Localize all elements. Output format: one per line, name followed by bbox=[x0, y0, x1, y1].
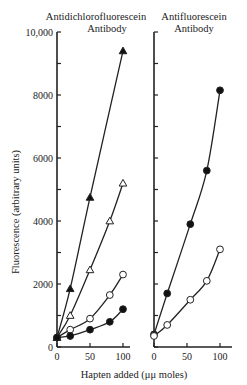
y-axis-label: Fluorescence (arbitrary units) bbox=[10, 149, 22, 274]
x-tick-label: 0 bbox=[55, 351, 60, 362]
filled-circle-marker bbox=[187, 221, 194, 228]
series-line-open-triangle bbox=[57, 183, 123, 337]
y-tick-label: 8000 bbox=[33, 90, 53, 101]
x-tick-label: 50 bbox=[182, 351, 192, 362]
filled-circle-marker bbox=[120, 306, 127, 313]
series bbox=[53, 47, 223, 341]
panel-1-title-line1: Antidichlorofluorescein bbox=[46, 11, 147, 22]
open-circle-marker bbox=[87, 315, 94, 322]
filled-circle-marker bbox=[164, 290, 171, 297]
open-triangle-marker bbox=[86, 266, 94, 273]
filled-circle-marker bbox=[67, 333, 74, 340]
y-tick-label: 0 bbox=[48, 342, 53, 353]
open-triangle-marker bbox=[106, 217, 114, 224]
open-triangle-marker bbox=[119, 179, 127, 186]
filled-circle-marker bbox=[203, 167, 210, 174]
x-tick-label: 100 bbox=[213, 351, 228, 362]
x-axis-label: Hapten added (μμ moles) bbox=[81, 369, 188, 381]
panel-1-title-line2: Antibody bbox=[87, 23, 127, 34]
open-triangle-marker bbox=[66, 312, 74, 319]
open-circle-marker bbox=[164, 322, 171, 329]
open-circle-marker bbox=[106, 292, 113, 299]
filled-circle-marker bbox=[54, 334, 61, 341]
x-tick-label: 100 bbox=[116, 351, 131, 362]
filled-circle-marker bbox=[217, 87, 224, 94]
fluorescence-chart: 0200040006000800010,000050100050100 Fluo… bbox=[0, 0, 247, 385]
filled-circle-marker bbox=[87, 326, 94, 333]
filled-circle-marker bbox=[106, 318, 113, 325]
x-tick-label: 0 bbox=[152, 351, 157, 362]
y-tick-label: 6000 bbox=[33, 153, 53, 164]
open-circle-marker bbox=[67, 326, 74, 333]
open-circle-marker bbox=[120, 271, 127, 278]
filled-triangle-marker bbox=[86, 194, 94, 201]
y-tick-label: 4000 bbox=[33, 216, 53, 227]
open-circle-marker bbox=[187, 296, 194, 303]
open-circle-marker bbox=[203, 277, 210, 284]
open-circle-marker bbox=[217, 246, 224, 253]
open-circle-marker bbox=[151, 333, 158, 340]
panel-2-title-line2: Antibody bbox=[174, 23, 214, 34]
axes: 0200040006000800010,000050100050100 bbox=[26, 27, 233, 363]
y-tick-label: 10,000 bbox=[26, 27, 54, 38]
y-tick-label: 2000 bbox=[33, 279, 53, 290]
panel-2-title-line1: Antifluorescein bbox=[161, 11, 227, 22]
filled-triangle-marker bbox=[66, 285, 74, 292]
filled-triangle-marker bbox=[119, 47, 127, 54]
x-tick-label: 50 bbox=[85, 351, 95, 362]
